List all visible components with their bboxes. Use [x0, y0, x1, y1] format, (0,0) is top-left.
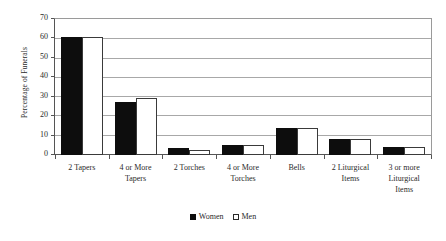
legend-item-women: Women — [190, 212, 224, 221]
x-axis-category-label: 2 Tapers — [51, 162, 113, 173]
x-axis-tick-mark — [377, 155, 378, 159]
y-axis-tick-label: 50 — [20, 53, 48, 61]
y-axis-tick-label: 10 — [20, 131, 48, 139]
filled-square-icon — [190, 214, 196, 220]
bar-group — [109, 19, 163, 155]
x-axis-tick-mark — [55, 155, 56, 159]
bars-layer — [55, 19, 431, 155]
x-axis-category-label: 3 or moreLiturgicalItems — [373, 162, 435, 195]
y-axis-tick-label: 40 — [20, 72, 48, 80]
x-axis-tick-mark — [162, 155, 163, 159]
bar-men — [82, 37, 103, 156]
bar-women — [61, 37, 82, 156]
bar-group — [270, 19, 324, 155]
bar-women — [383, 147, 404, 155]
bar-men — [243, 145, 264, 155]
bar-group — [55, 19, 109, 155]
x-axis-tick-mark — [109, 155, 110, 159]
x-axis-tick-mark — [324, 155, 325, 159]
x-axis-category-label: 2 LiturgicalItems — [320, 162, 382, 184]
x-axis-category-label: 4 or MoreTapers — [105, 162, 167, 184]
bar-women — [222, 145, 243, 155]
x-axis-tick-mark — [270, 155, 271, 159]
bar-women — [276, 128, 297, 155]
bar-men — [189, 150, 210, 155]
x-axis-tick-mark — [216, 155, 217, 159]
bar-group — [324, 19, 378, 155]
bar-men — [297, 128, 318, 155]
x-axis-category-label: 4 or MoreTorches — [212, 162, 274, 184]
bar-women — [329, 139, 350, 155]
bar-men — [350, 139, 371, 155]
legend-item-men: Men — [233, 212, 257, 221]
legend-label: Women — [199, 212, 224, 221]
y-axis-tick-label: 60 — [20, 33, 48, 41]
x-axis-category-label: 2 Torches — [158, 162, 220, 173]
x-axis-tick-mark — [431, 155, 432, 159]
bar-women — [115, 102, 136, 155]
bar-men — [404, 147, 425, 155]
y-axis-tick-label: 20 — [20, 111, 48, 119]
x-axis-category-label: Bells — [266, 162, 328, 173]
y-axis-tick-label: 30 — [20, 92, 48, 100]
legend-label: Men — [242, 212, 257, 221]
y-axis-tick-label: 70 — [20, 14, 48, 22]
bar-men — [136, 98, 157, 155]
empty-square-icon — [233, 214, 239, 220]
bar-chart: Percentage of Funerals 010203040506070 2… — [0, 0, 446, 241]
bar-group — [216, 19, 270, 155]
bar-women — [168, 148, 189, 155]
bar-group — [162, 19, 216, 155]
bar-group — [377, 19, 431, 155]
chart-legend: WomenMen — [0, 212, 446, 221]
y-axis-tick-label: 0 — [20, 150, 48, 158]
